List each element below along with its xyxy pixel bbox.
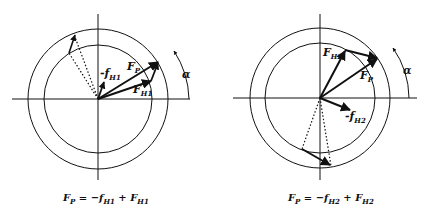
right-dotted-line <box>302 98 320 149</box>
left-label-fp: FP <box>126 60 141 75</box>
left-label-alpha: α <box>182 68 191 81</box>
left-label-fh: FH1 <box>132 83 152 98</box>
left-diagram: -fH1 FP FH1 α <box>12 14 191 180</box>
right-caption: FP = −fH2 + FH2 <box>288 192 374 206</box>
right-label-fp: FP <box>359 69 374 84</box>
left-caption: FP = −fH1 + FH1 <box>63 192 149 206</box>
phasor-diagrams: -fH1 FP FH1 α FH2 FP -fH2 α <box>0 0 426 221</box>
right-label-alpha: α <box>403 64 412 77</box>
right-neg-f-vector <box>320 98 350 110</box>
right-label-neg-f: -fH2 <box>345 110 366 125</box>
left-dotted-line <box>69 53 98 99</box>
right-lower-arrow <box>302 149 330 165</box>
right-label-fh: FH2 <box>322 46 342 61</box>
right-diagram: FH2 FP -fH2 α <box>233 14 417 180</box>
right-dotted-line <box>320 98 331 166</box>
left-label-neg-f: -fH1 <box>100 67 121 82</box>
